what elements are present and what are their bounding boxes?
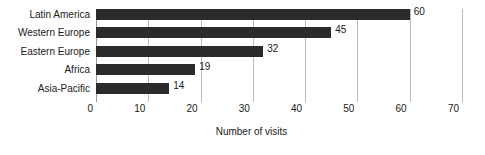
x-axis-title-text: Number of visits: [216, 126, 288, 137]
x-tick-label: 50: [343, 103, 357, 115]
plot-area: 60 45 32 19 14: [96, 9, 462, 102]
category-label: Africa: [0, 64, 90, 75]
bar-value-label: 45: [331, 24, 346, 35]
x-tick-label: 20: [186, 103, 200, 115]
x-tick-label: 40: [291, 103, 305, 115]
category-label: Asia-Pacific: [0, 83, 90, 94]
x-tick-label: 30: [239, 103, 253, 115]
category-label: Eastern Europe: [0, 46, 90, 57]
bar: [96, 9, 410, 20]
x-axis-title: Number of visits: [0, 126, 485, 137]
bar-value-label: 60: [410, 6, 425, 17]
bar: [96, 46, 263, 57]
bar-chart: Latin America Western Europe Eastern Eur…: [0, 0, 485, 155]
bar: [96, 83, 169, 94]
x-tick-label: 10: [134, 103, 148, 115]
category-label: Western Europe: [0, 27, 90, 38]
x-axis-tick-labels: 0 10 20 30 40 50 60 70: [96, 103, 476, 117]
category-label: Latin America: [0, 9, 90, 20]
bar-value-label: 19: [195, 61, 210, 72]
bar-value-label: 14: [169, 80, 184, 91]
category-axis-labels: Latin America Western Europe Eastern Eur…: [0, 9, 90, 102]
x-tick-label: 70: [448, 103, 462, 115]
bar-value-label: 32: [263, 43, 278, 54]
bar-series: 60 45 32 19 14: [96, 9, 462, 102]
x-tick-label: 60: [396, 103, 410, 115]
bar: [96, 27, 331, 38]
bar: [96, 64, 195, 75]
gridline-70: [462, 9, 463, 102]
x-tick-label: 0: [87, 103, 96, 115]
